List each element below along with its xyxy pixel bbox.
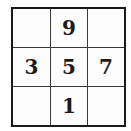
cell-r1-c2: 9	[51, 9, 88, 48]
cell-r3-c1	[13, 87, 51, 125]
cell-r2-c1: 3	[13, 48, 51, 87]
cell-r3-c2: 1	[51, 87, 88, 125]
cell-r1-c3	[88, 9, 124, 48]
cell-r2-c2: 5	[51, 48, 88, 87]
number-grid: 9 3 5 7 1	[11, 7, 126, 127]
cell-r2-c3: 7	[88, 48, 124, 87]
cell-r3-c3	[88, 87, 124, 125]
cell-r1-c1	[13, 9, 51, 48]
